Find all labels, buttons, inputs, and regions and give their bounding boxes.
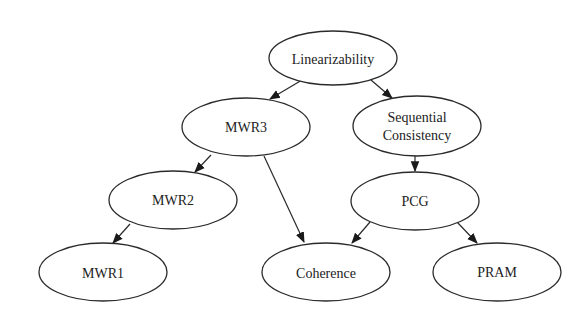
edge-pcg-pram xyxy=(457,222,477,243)
edge-mwr3-mwr2 xyxy=(195,155,211,172)
edge-mwr3-coherence xyxy=(264,156,304,242)
node-sequential-consistency xyxy=(353,96,481,156)
edge-mwr2-mwr1 xyxy=(113,224,130,243)
label-mwr2: MWR2 xyxy=(152,193,194,209)
label-linearizability: Linearizability xyxy=(292,52,374,68)
label-mwr1: MWR1 xyxy=(82,266,124,282)
label-coherence: Coherence xyxy=(296,266,356,282)
edge-linearizability-seqcons xyxy=(371,80,392,98)
edge-linearizability-mwr3 xyxy=(270,80,302,99)
label-mwr3: MWR3 xyxy=(225,120,267,136)
label-sequential: Sequential xyxy=(387,110,446,126)
label-consistency: Consistency xyxy=(383,128,451,144)
label-pcg: PCG xyxy=(401,194,428,210)
label-pram: PRAM xyxy=(477,265,517,281)
edge-pcg-coherence xyxy=(352,222,370,243)
